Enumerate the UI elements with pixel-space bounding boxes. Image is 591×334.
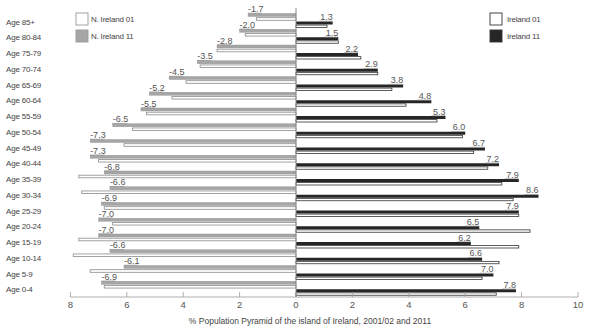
value-label-ireland-2011: 6.0 [453, 122, 466, 132]
age-group-label: Age 45-49 [6, 144, 42, 153]
bar-ireland-2001 [296, 57, 361, 59]
bar-ireland-2011 [296, 85, 403, 88]
bar-ireland-2011 [296, 258, 482, 261]
bar-n-ireland-2001 [90, 270, 296, 273]
value-label-ireland-2011: 1.5 [326, 28, 339, 38]
bar-ireland-2011 [296, 148, 485, 151]
bar-n-ireland-2001 [104, 285, 296, 288]
value-label-n-ireland-2011: -6.9 [101, 272, 117, 282]
bar-ireland-2001 [296, 214, 519, 216]
legend-swatch [76, 13, 88, 25]
legend-label: N. Ireland 01 [91, 15, 135, 24]
x-tick-label: 6 [463, 299, 468, 310]
value-label-ireland-2011: 4.8 [419, 91, 432, 101]
value-label-ireland-2011: 1.3 [320, 12, 333, 22]
value-label-n-ireland-2011: -7.3 [90, 130, 106, 140]
x-tick-label: 8 [519, 299, 524, 310]
value-label-n-ireland-2011: -4.5 [169, 67, 185, 77]
bar-ireland-2011 [296, 132, 465, 135]
value-label-n-ireland-2011: -6.8 [104, 162, 120, 172]
bar-ireland-2001 [296, 41, 338, 43]
bar-ireland-2001 [296, 293, 496, 295]
legend-swatch [490, 13, 502, 25]
value-label-ireland-2011: 6.5 [467, 217, 480, 227]
bar-ireland-2011 [296, 242, 471, 245]
legend-northern-ireland: N. Ireland 01N. Ireland 11 [76, 13, 135, 42]
bar-n-ireland-2001 [124, 144, 296, 147]
value-label-ireland-2011: 2.9 [365, 59, 378, 69]
value-label-ireland-2011: 3.8 [391, 75, 404, 85]
value-label-n-ireland-2011: -3.5 [197, 51, 213, 61]
bar-ireland-2001 [296, 246, 519, 248]
bar-n-ireland-2011 [104, 171, 296, 174]
value-label-n-ireland-2011: -5.5 [141, 99, 157, 109]
value-label-n-ireland-2011: -6.6 [110, 240, 126, 250]
bar-ireland-2011 [296, 226, 479, 229]
value-label-n-ireland-2011: -7.0 [99, 209, 115, 219]
value-label-n-ireland-2011: -2.0 [240, 20, 256, 30]
age-group-label: Age 30-34 [6, 191, 42, 200]
bar-ireland-2001 [296, 135, 462, 137]
value-label-ireland-2011: 6.6 [470, 248, 483, 258]
value-label-ireland-2011: 7.9 [506, 201, 519, 211]
legend-label: Ireland 01 [507, 15, 541, 24]
age-group-label: Age 0-4 [6, 285, 33, 294]
value-label-ireland-2011: 7.0 [481, 264, 494, 274]
bar-n-ireland-2001 [172, 96, 296, 99]
x-tick-label: 0 [293, 299, 298, 310]
bar-ireland-2001 [296, 104, 406, 106]
value-label-ireland-2011: 8.6 [526, 185, 539, 195]
population-pyramid-chart: Age 85+Age 80-84Age 75-79Age 70-74Age 65… [0, 0, 591, 334]
x-tick-label: 2 [237, 299, 242, 310]
bar-n-ireland-2011 [124, 266, 296, 269]
legend-swatch [490, 30, 502, 42]
bar-n-ireland-2011 [101, 281, 296, 284]
bar-n-ireland-2011 [99, 234, 296, 237]
bar-ireland-2011 [296, 289, 516, 292]
bar-n-ireland-2001 [104, 207, 296, 210]
age-group-labels: Age 85+Age 80-84Age 75-79Age 70-74Age 65… [6, 18, 42, 295]
value-label-ireland-2011: 7.2 [487, 154, 500, 164]
bar-ireland-2001 [296, 120, 437, 122]
value-label-n-ireland-2011: -2.8 [217, 36, 233, 46]
bar-n-ireland-2011 [169, 77, 296, 80]
bar-ireland-2011 [296, 163, 499, 166]
bar-n-ireland-2011 [110, 187, 296, 190]
bar-n-ireland-2011 [90, 140, 296, 143]
bar-ireland-2011 [296, 195, 539, 198]
value-label-ireland-2011: 7.8 [503, 280, 516, 290]
bar-n-ireland-2001 [186, 81, 296, 84]
value-label-n-ireland-2011: -6.1 [124, 256, 140, 266]
bar-ireland-2001 [296, 261, 499, 263]
bar-ireland-2011 [296, 179, 519, 182]
bar-n-ireland-2001 [99, 159, 296, 162]
bar-ireland-2011 [296, 116, 445, 119]
legend-swatch [76, 30, 88, 42]
age-group-label: Age 20-24 [6, 222, 42, 231]
bar-ireland-2001 [296, 183, 502, 185]
age-group-label: Age 80-84 [6, 33, 42, 42]
value-label-ireland-2011: 6.2 [458, 233, 471, 243]
bar-n-ireland-2011 [99, 218, 296, 221]
x-tick-label: 2 [350, 299, 355, 310]
bar-n-ireland-2001 [113, 222, 296, 225]
x-tick-label: 10 [573, 299, 584, 310]
value-label-n-ireland-2011: -1.7 [248, 4, 264, 14]
value-label-ireland-2011: 2.2 [346, 44, 359, 54]
bar-ireland-2001 [296, 88, 392, 90]
bar-ireland-2001 [296, 198, 513, 200]
bar-n-ireland-2001 [147, 112, 296, 115]
value-label-n-ireland-2011: -7.0 [99, 225, 115, 235]
bar-n-ireland-2001 [245, 33, 296, 36]
value-label-n-ireland-2011: -6.9 [101, 193, 117, 203]
x-tick-label: 8 [68, 299, 73, 310]
age-group-label: Age 35-39 [6, 175, 42, 184]
age-group-label: Age 25-29 [6, 207, 42, 216]
age-group-label: Age 70-74 [6, 65, 42, 74]
bar-n-ireland-2011 [113, 124, 296, 127]
x-tick-label: 6 [124, 299, 129, 310]
x-axis-title: % Population Pyramid of the island of Ir… [189, 316, 432, 326]
value-label-ireland-2011: 5.3 [433, 107, 446, 117]
bar-ireland-2011 [296, 274, 493, 277]
age-group-label: Age 15-19 [6, 238, 42, 247]
